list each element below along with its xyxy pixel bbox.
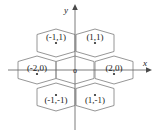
hex-lattice-canvas: y x (-1,1) (1,1) (-2,0) (2,0) (-1,-1) (1… [0,0,160,140]
hex-lattice-figure: y x (-1,1) (1,1) (-2,0) (2,0) (-1,-1) (1… [0,0,160,140]
y-axis-arrowhead [72,4,78,10]
cell-label-1-1: (1,1) [86,32,103,42]
x-axis-arrowhead [146,67,152,73]
origin-label: o [73,66,77,75]
cell-label-neg2-0: (-2,0) [27,63,47,73]
cell-label-neg1-neg1: (-1,-1) [44,95,67,105]
cell-label-1-neg1: (1,-1) [85,95,105,105]
x-axis-label: x [142,58,147,68]
cell-dot-neg1-1 [55,42,57,44]
cell-dot-2-0 [113,73,115,75]
y-axis-label: y [63,5,68,15]
cell-label-neg1-1: (-1,1) [46,32,66,42]
cell-dot-neg2-0 [36,73,38,75]
cell-label-2-0: (2,0) [105,63,122,73]
cell-dot-1-1 [94,42,96,44]
